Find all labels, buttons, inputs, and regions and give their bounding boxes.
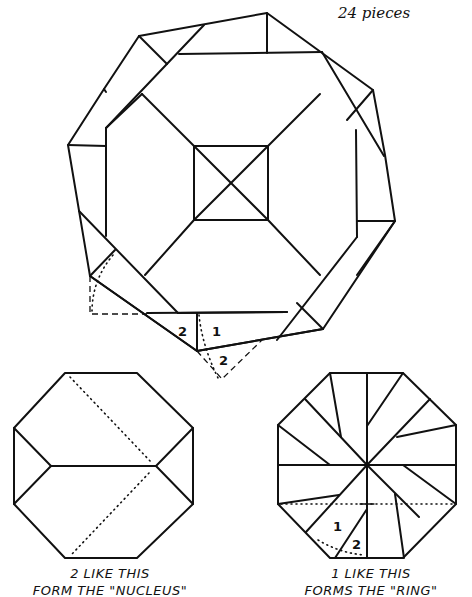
ring-caption-line2: FORMS THE "RING" bbox=[270, 582, 472, 597]
nucleus-caption: 2 LIKE THIS FORM THE "NUCLEUS" bbox=[0, 565, 220, 597]
ring-figure: 1 2 bbox=[278, 373, 456, 558]
ring-caption: 1 LIKE THIS FORMS THE "RING" bbox=[270, 565, 472, 597]
piece-label-2-left: 2 bbox=[178, 324, 187, 339]
piece-label-1: 1 bbox=[212, 324, 221, 339]
ring-caption-line1: 1 LIKE THIS bbox=[270, 565, 472, 582]
nucleus-figure bbox=[14, 373, 193, 558]
piece-label-2-right: 2 bbox=[219, 353, 228, 368]
diagram-canvas: 2 1 2 1 2 bbox=[0, 0, 472, 597]
nucleus-caption-line1: 2 LIKE THIS bbox=[0, 565, 220, 582]
nucleus-caption-line2: FORM THE "NUCLEUS" bbox=[0, 582, 220, 597]
ring-piece-label-2: 2 bbox=[352, 537, 361, 552]
assembled-figure: 2 1 2 bbox=[68, 13, 395, 379]
ring-piece-label-1: 1 bbox=[333, 519, 342, 534]
